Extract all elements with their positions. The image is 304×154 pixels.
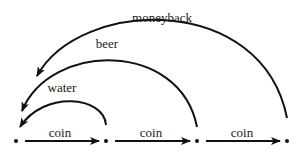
state-node-3 xyxy=(285,139,289,143)
coin-label-1: coin xyxy=(49,125,72,140)
coin-label-3: coin xyxy=(231,125,254,140)
beer-label: beer xyxy=(96,36,119,51)
moneyback-label: moneyback xyxy=(132,10,192,25)
state-node-2 xyxy=(195,139,199,143)
moneyback-arc-arrow xyxy=(37,20,287,118)
diagram-canvas: coin coin coin water beer moneyback xyxy=(0,0,304,154)
transition-diagram: coin coin coin water beer moneyback xyxy=(0,0,304,154)
coin-label-2: coin xyxy=(140,125,163,140)
water-arc-arrow xyxy=(20,101,106,127)
state-node-1 xyxy=(104,139,108,143)
state-node-0 xyxy=(14,139,18,143)
water-label: water xyxy=(48,80,78,95)
